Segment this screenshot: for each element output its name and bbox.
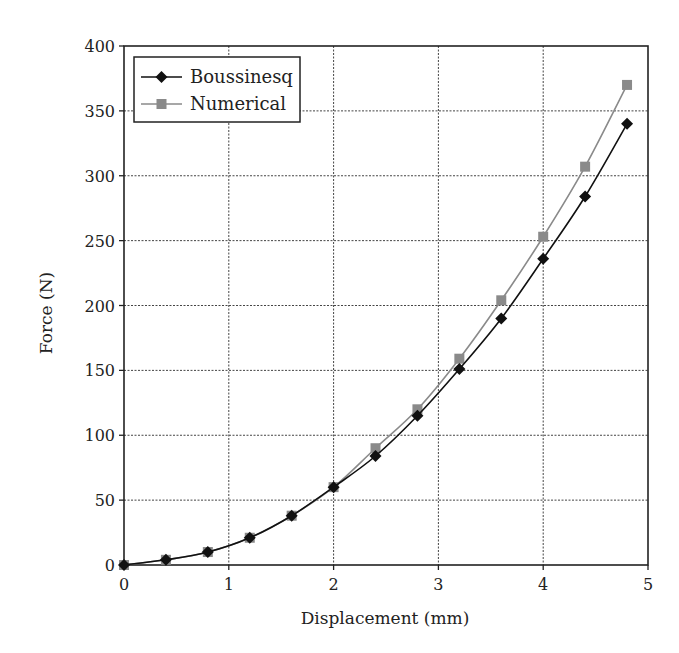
square-marker-icon: [454, 354, 464, 364]
data-series: [118, 80, 633, 571]
y-tick-label: 300: [84, 167, 115, 186]
y-tick-label: 100: [84, 426, 115, 445]
y-tick-label: 150: [84, 361, 115, 380]
series-boussinesq: [118, 118, 633, 571]
diamond-marker-icon: [621, 118, 633, 130]
legend: Boussinesq Numerical: [134, 57, 300, 122]
x-axis-title: Displacement (mm): [301, 608, 470, 628]
y-tick-label: 400: [84, 37, 115, 56]
y-tick-label: 350: [84, 102, 115, 121]
diamond-marker-icon: [537, 253, 549, 265]
square-marker-icon: [157, 99, 167, 109]
square-marker-icon: [538, 232, 548, 242]
y-axis-title: Force (N): [36, 272, 56, 354]
x-tick-label: 5: [643, 575, 653, 594]
grid-lines: [124, 46, 648, 565]
series-line: [124, 124, 627, 565]
x-tick-label: 2: [329, 575, 339, 594]
series-numerical: [119, 80, 632, 570]
legend-label-boussinesq: Boussinesq: [190, 66, 293, 87]
legend-label-numerical: Numerical: [190, 93, 286, 114]
square-marker-icon: [496, 295, 506, 305]
chart: 012345050100150200250300350400 Displacem…: [0, 0, 679, 653]
x-tick-label: 4: [538, 575, 548, 594]
y-tick-label: 50: [95, 491, 115, 510]
square-marker-icon: [622, 80, 632, 90]
y-tick-label: 0: [105, 556, 115, 575]
x-tick-label: 3: [433, 575, 443, 594]
x-tick-label: 0: [119, 575, 129, 594]
y-tick-label: 200: [84, 297, 115, 316]
diamond-marker-icon: [579, 191, 591, 203]
square-marker-icon: [580, 162, 590, 172]
y-tick-label: 250: [84, 232, 115, 251]
x-tick-label: 1: [224, 575, 234, 594]
series-line: [124, 85, 627, 565]
